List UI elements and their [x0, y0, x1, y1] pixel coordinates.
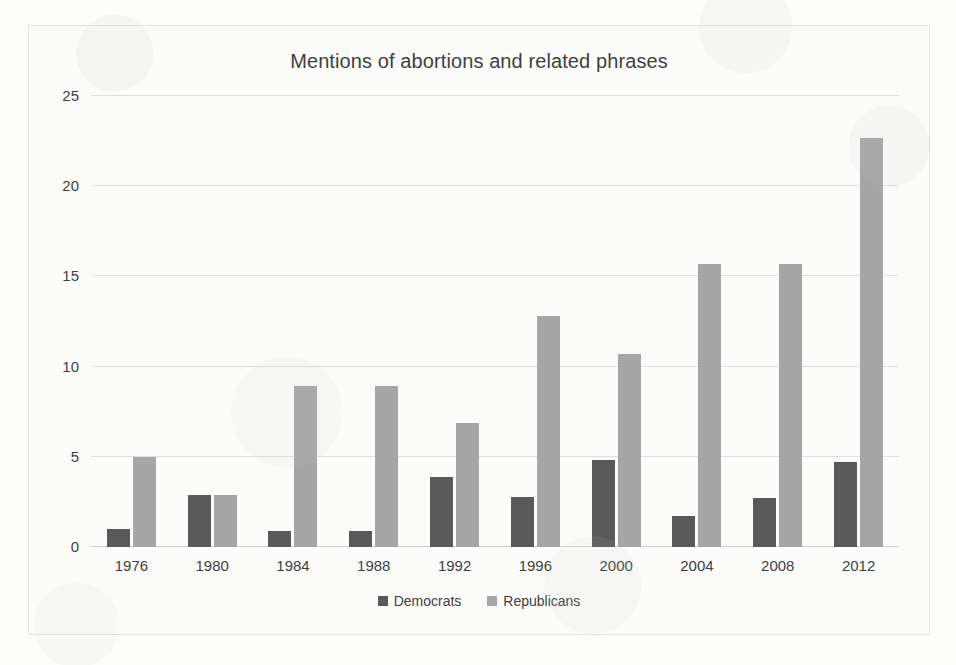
- x-axis-label-1976: 1976: [91, 557, 172, 574]
- bar-republicans-1992: [456, 423, 479, 547]
- bar-republicans-1984: [294, 386, 317, 547]
- bar-group-2000: [592, 96, 641, 547]
- bar-group-1996: [511, 96, 560, 547]
- bar-group-1984: [268, 96, 317, 547]
- y-axis-tick-label: 5: [71, 447, 79, 464]
- bar-republicans-1980: [214, 495, 237, 547]
- x-axis-label-2004: 2004: [657, 557, 738, 574]
- bar-democrats-1988: [349, 531, 372, 547]
- bar-group-1980: [188, 96, 237, 547]
- bar-democrats-1984: [268, 531, 291, 547]
- bar-republicans-2000: [618, 354, 641, 547]
- bar-republicans-1988: [375, 386, 398, 547]
- bar-republicans-2004: [698, 264, 721, 547]
- x-axis-label-1988: 1988: [333, 557, 414, 574]
- bar-republicans-1996: [537, 316, 560, 547]
- x-axis-labels: 1976198019841988199219962000200420082012: [91, 557, 899, 574]
- plot-area: 0510152025: [91, 96, 899, 547]
- bar-republicans-2008: [779, 264, 802, 547]
- legend-item-democrats[interactable]: Democrats: [378, 593, 462, 609]
- y-axis-tick-label: 0: [71, 538, 79, 555]
- bar-democrats-1992: [430, 477, 453, 547]
- bar-democrats-1976: [107, 529, 130, 547]
- bar-group-1992: [430, 96, 479, 547]
- bar-group-2004: [672, 96, 721, 547]
- y-axis-tick-label: 20: [62, 177, 79, 194]
- bar-democrats-2008: [753, 498, 776, 547]
- y-axis-tick-label: 15: [62, 267, 79, 284]
- y-axis-tick-label: 25: [62, 87, 79, 104]
- bar-group-2008: [753, 96, 802, 547]
- legend-swatch-icon: [378, 596, 388, 606]
- bar-democrats-2012: [834, 462, 857, 547]
- x-axis-label-1992: 1992: [414, 557, 495, 574]
- legend-label: Democrats: [394, 593, 462, 609]
- bar-groups: [91, 96, 899, 547]
- bar-group-2012: [834, 96, 883, 547]
- bar-democrats-1980: [188, 495, 211, 547]
- x-axis-label-2008: 2008: [737, 557, 818, 574]
- x-axis-label-1996: 1996: [495, 557, 576, 574]
- bar-group-1976: [107, 96, 156, 547]
- x-axis-label-2012: 2012: [818, 557, 899, 574]
- bar-democrats-2000: [592, 460, 615, 547]
- legend-swatch-icon: [487, 596, 497, 606]
- y-axis-tick-label: 10: [62, 357, 79, 374]
- bar-republicans-2012: [860, 138, 883, 548]
- bar-democrats-2004: [672, 516, 695, 547]
- x-axis-label-2000: 2000: [576, 557, 657, 574]
- bar-group-1988: [349, 96, 398, 547]
- chart-frame: Mentions of abortions and related phrase…: [28, 25, 930, 635]
- chart-legend: DemocratsRepublicans: [29, 593, 929, 609]
- x-axis-label-1980: 1980: [172, 557, 253, 574]
- chart-title: Mentions of abortions and related phrase…: [29, 50, 929, 73]
- bar-democrats-1996: [511, 497, 534, 548]
- bar-republicans-1976: [133, 457, 156, 547]
- legend-label: Republicans: [503, 593, 580, 609]
- x-axis-label-1984: 1984: [253, 557, 334, 574]
- legend-item-republicans[interactable]: Republicans: [487, 593, 580, 609]
